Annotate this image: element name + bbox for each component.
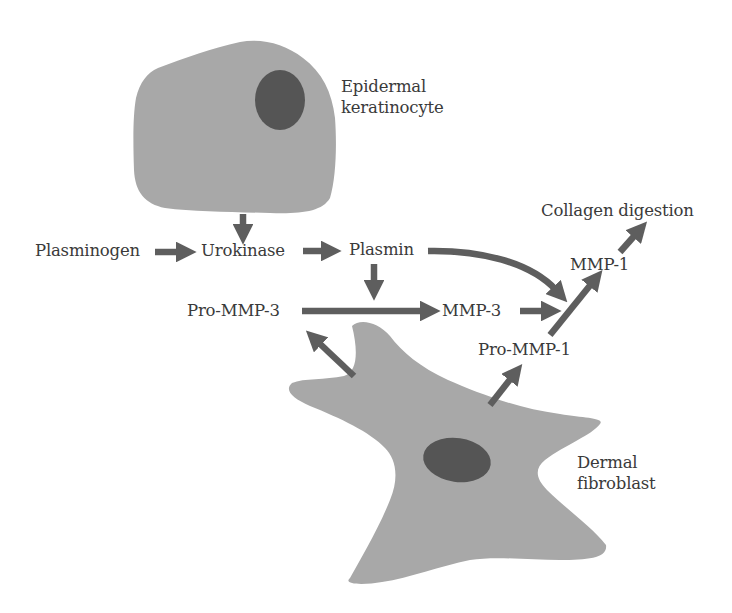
node-mmp3: MMP-3 bbox=[442, 303, 501, 320]
protease-cascade-diagram: Epidermal keratinocyte Plasminogen Uroki… bbox=[0, 0, 732, 613]
keratinocyte-body bbox=[133, 41, 336, 213]
keratinocyte-cell bbox=[133, 41, 336, 213]
node-collagen-digestion: Collagen digestion bbox=[541, 203, 694, 220]
keratinocyte-label-line2: keratinocyte bbox=[341, 97, 444, 118]
arrow-plasmin-curve-to-mmp1 bbox=[428, 251, 556, 290]
node-urokinase: Urokinase bbox=[201, 243, 285, 260]
arrow-fibroblast-to-pro-mmp3 bbox=[318, 342, 354, 376]
arrow-pro-mmp1-to-mmp1 bbox=[550, 283, 592, 335]
node-plasmin: Plasmin bbox=[349, 242, 414, 259]
fibroblast-label-line1: Dermal bbox=[577, 452, 656, 473]
node-pro-mmp3: Pro-MMP-3 bbox=[187, 303, 280, 320]
fibroblast-label: Dermal fibroblast bbox=[577, 452, 656, 494]
fibroblast-label-line2: fibroblast bbox=[577, 473, 656, 494]
arrow-mmp1-to-collagen bbox=[620, 234, 636, 252]
node-mmp1: MMP-1 bbox=[570, 257, 629, 274]
keratinocyte-label-line1: Epidermal bbox=[341, 76, 444, 97]
keratinocyte-label: Epidermal keratinocyte bbox=[341, 76, 444, 118]
node-plasminogen: Plasminogen bbox=[35, 243, 140, 260]
keratinocyte-nucleus bbox=[255, 70, 305, 130]
node-pro-mmp1: Pro-MMP-1 bbox=[478, 342, 571, 359]
